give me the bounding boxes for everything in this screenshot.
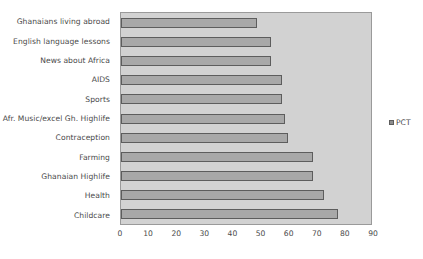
x-tick-label: 60 bbox=[284, 229, 294, 238]
x-tick-label: 30 bbox=[199, 229, 209, 238]
plot-area bbox=[120, 12, 372, 225]
value-axis: 0102030405060708090 bbox=[120, 226, 373, 244]
bar bbox=[121, 209, 338, 219]
x-tick-label: 50 bbox=[256, 229, 266, 238]
x-tick-label: 80 bbox=[340, 229, 350, 238]
category-label: Sports bbox=[0, 89, 115, 108]
category-label: Ghanaians living abroad bbox=[0, 12, 115, 31]
bar-row bbox=[121, 205, 371, 224]
bar bbox=[121, 37, 271, 47]
category-label: AIDS bbox=[0, 70, 115, 89]
legend: PCT bbox=[389, 118, 411, 127]
category-label: Contraception bbox=[0, 128, 115, 147]
x-tick-label: 10 bbox=[143, 229, 153, 238]
category-label: Health bbox=[0, 186, 115, 205]
x-tick-label: 70 bbox=[312, 229, 322, 238]
bar-row bbox=[121, 51, 371, 70]
bar-row bbox=[121, 128, 371, 147]
bar-row bbox=[121, 13, 371, 32]
bar bbox=[121, 190, 324, 200]
bar-row bbox=[121, 186, 371, 205]
bar bbox=[121, 56, 271, 66]
bar bbox=[121, 75, 282, 85]
x-tick-label: 20 bbox=[171, 229, 181, 238]
bar bbox=[121, 171, 313, 181]
x-tick-label: 0 bbox=[118, 229, 123, 238]
bar bbox=[121, 133, 288, 143]
category-axis: Ghanaians living abroad English language… bbox=[0, 12, 115, 225]
category-label: Afr. Music/excel Gh. Highlife bbox=[0, 109, 115, 128]
category-label: Farming bbox=[0, 148, 115, 167]
bar-row bbox=[121, 32, 371, 51]
bars-layer bbox=[121, 13, 371, 224]
bar-row bbox=[121, 90, 371, 109]
category-label: English language lessons bbox=[0, 31, 115, 50]
bar-row bbox=[121, 71, 371, 90]
bar bbox=[121, 114, 285, 124]
x-tick-label: 40 bbox=[228, 229, 238, 238]
bar bbox=[121, 94, 282, 104]
category-label: News about Africa bbox=[0, 51, 115, 70]
legend-label-pct: PCT bbox=[396, 118, 411, 127]
bar-row bbox=[121, 167, 371, 186]
bar-chart: Ghanaians living abroad English language… bbox=[0, 0, 423, 259]
category-label: Ghanaian Highlife bbox=[0, 167, 115, 186]
legend-swatch-pct bbox=[389, 120, 394, 125]
bar-row bbox=[121, 147, 371, 166]
bar bbox=[121, 18, 257, 28]
x-tick-label: 90 bbox=[368, 229, 378, 238]
bar-row bbox=[121, 109, 371, 128]
bar bbox=[121, 152, 313, 162]
category-label: Childcare bbox=[0, 206, 115, 225]
